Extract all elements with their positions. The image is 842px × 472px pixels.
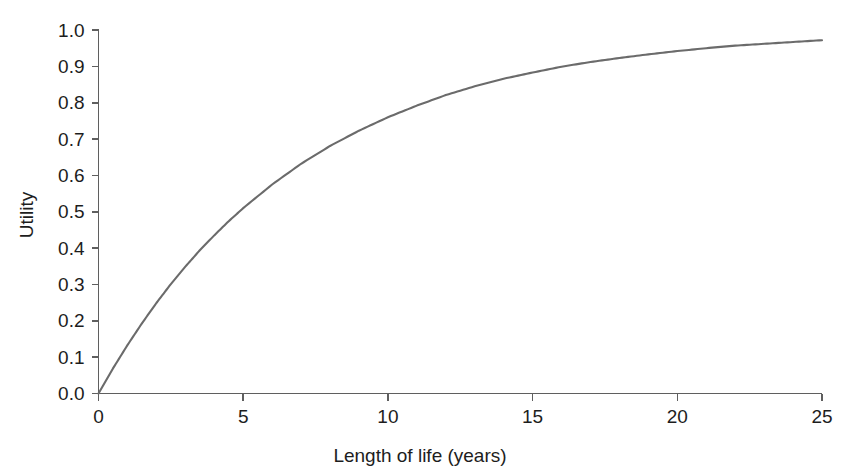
- x-tick-label: 25: [811, 406, 832, 427]
- y-tick-label: 0.6: [58, 165, 84, 186]
- y-tick-label: 0.2: [58, 310, 84, 331]
- y-tick-label: 0.8: [58, 92, 84, 113]
- chart-figure: 0.00.10.20.30.40.50.60.70.80.91.0 Utilit…: [0, 0, 842, 472]
- x-tick-label: 5: [238, 406, 249, 427]
- utility-length-of-life-line-chart: 0.00.10.20.30.40.50.60.70.80.91.0 Utilit…: [0, 0, 842, 472]
- x-tick-label: 0: [93, 406, 104, 427]
- y-tick-label: 0.0: [58, 383, 84, 404]
- y-tick-label: 0.4: [58, 238, 85, 259]
- y-axis-title: Utility: [16, 191, 37, 238]
- y-tick-label: 0.9: [58, 56, 84, 77]
- y-tick-label: 0.1: [58, 347, 84, 368]
- y-tick-label: 1.0: [58, 20, 84, 41]
- chart-background: [0, 0, 842, 472]
- y-tick-label: 0.3: [58, 274, 84, 295]
- y-tick-label: 0.7: [58, 129, 84, 150]
- x-axis-title: Length of life (years): [333, 445, 506, 466]
- x-tick-label: 20: [667, 406, 688, 427]
- x-tick-label: 10: [377, 406, 398, 427]
- x-tick-label: 15: [522, 406, 543, 427]
- y-tick-label: 0.5: [58, 201, 84, 222]
